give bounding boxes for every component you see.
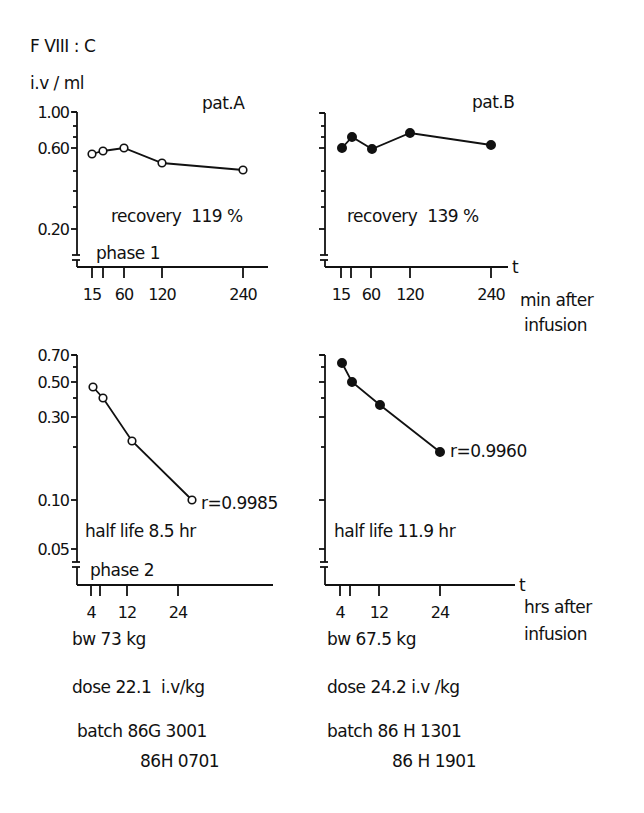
lower-x-unit-line2: infusion (524, 624, 587, 644)
filled-circle-marker (338, 144, 346, 152)
open-circle-marker (128, 437, 136, 445)
y-quantity-label: F VIII : C (30, 36, 95, 56)
x-tick-label: 15 (83, 285, 101, 304)
x-tick-label: 12 (118, 603, 136, 622)
filled-circle-marker (487, 141, 495, 149)
batch-line1-pat-b: batch 86 H 1301 (327, 721, 461, 741)
r-value-pat-b: r=0.9960 (450, 441, 527, 461)
y-tick-label: 0.70 (37, 346, 69, 365)
r-value-pat-a: r=0.9985 (201, 493, 278, 513)
y-tick-label: 0.20 (37, 220, 69, 239)
panel-pat-a-phase2: 0.050.100.300.500.7041224 (37, 346, 273, 622)
lower-x-unit-line1: hrs after (524, 597, 592, 617)
phase2-label: phase 2 (90, 560, 154, 580)
bw-pat-b: bw 67.5 kg (327, 629, 416, 649)
y-tick-label: 0.50 (37, 373, 69, 392)
x-tick-label: 15 (332, 285, 350, 304)
y-tick-label: 0.60 (37, 139, 69, 158)
data-series-line (342, 133, 491, 149)
data-series-line (93, 387, 192, 500)
recovery-pat-b: recovery 139 % (347, 206, 479, 226)
dose-pat-a: dose 22.1 i.v/kg (72, 677, 205, 697)
half-life-pat-a: half life 8.5 hr (85, 521, 196, 541)
upper-x-unit-line1: min after (520, 290, 593, 310)
filled-circle-marker (376, 401, 384, 409)
data-series-line (92, 148, 243, 170)
x-tick-label: 24 (169, 603, 188, 622)
batch-line2-pat-a: 86H 0701 (140, 751, 219, 771)
open-circle-marker (158, 159, 166, 167)
y-tick-label: 1.00 (37, 103, 69, 122)
y-unit-label: i.v / ml (30, 73, 84, 93)
panel-pat-b-phase2: t41224 (319, 355, 526, 622)
time-marker: t (512, 257, 519, 277)
x-tick-label: 60 (115, 285, 134, 304)
filled-circle-marker (348, 133, 356, 141)
x-tick-label: 60 (362, 285, 381, 304)
open-circle-marker (239, 166, 247, 174)
open-circle-marker (88, 150, 96, 158)
open-circle-marker (188, 496, 196, 504)
x-tick-label: 4 (86, 603, 96, 622)
y-tick-label: 0.05 (37, 540, 69, 559)
time-marker: t (519, 575, 526, 595)
filled-circle-marker (406, 129, 414, 137)
x-tick-label: 240 (229, 285, 257, 304)
y-tick-label: 0.10 (37, 491, 69, 510)
filled-circle-marker (368, 145, 376, 153)
batch-line1-pat-a: batch 86G 3001 (77, 721, 207, 741)
open-circle-marker (99, 147, 107, 155)
data-series-line (342, 363, 440, 452)
half-life-pat-b: half life 11.9 hr (334, 521, 455, 541)
panel-pat-a-phase1: 0.200.601.001560120240 (37, 103, 268, 304)
open-circle-marker (120, 144, 128, 152)
x-tick-label: 24 (431, 603, 450, 622)
recovery-pat-a: recovery 119 % (111, 206, 243, 226)
filled-circle-marker (348, 378, 356, 386)
open-circle-marker (89, 383, 97, 391)
y-tick-label: 0.30 (37, 408, 69, 427)
upper-x-unit-line2: infusion (524, 315, 587, 335)
panel-title-pat-a: pat.A (202, 93, 244, 113)
bw-pat-a: bw 73 kg (72, 629, 146, 649)
x-tick-label: 4 (335, 603, 345, 622)
filled-circle-marker (436, 448, 444, 456)
x-tick-label: 12 (370, 603, 388, 622)
x-tick-label: 240 (477, 285, 505, 304)
batch-line2-pat-b: 86 H 1901 (392, 751, 476, 771)
panel-title-pat-b: pat.B (472, 92, 514, 112)
dose-pat-b: dose 24.2 i.v /kg (327, 677, 460, 697)
x-tick-label: 120 (148, 285, 176, 304)
filled-circle-marker (338, 359, 346, 367)
open-circle-marker (99, 394, 107, 402)
x-tick-label: 120 (396, 285, 424, 304)
phase1-label: phase 1 (96, 243, 160, 263)
